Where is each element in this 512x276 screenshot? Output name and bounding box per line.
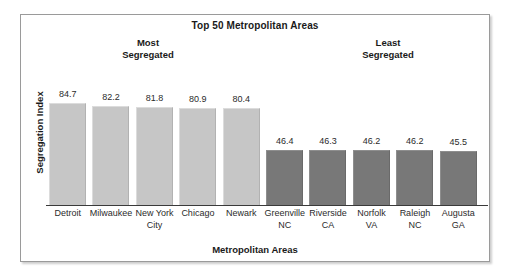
bar <box>49 103 86 206</box>
bar-slot <box>220 61 263 206</box>
bar <box>309 150 346 206</box>
bar-value-label: 46.2 <box>350 136 393 146</box>
bar <box>353 150 390 206</box>
annotation-most-segregated: Most Segregated <box>93 37 203 61</box>
bar-slot <box>393 61 436 206</box>
x-tick-label: AugustaGA <box>433 208 483 231</box>
bar-slot <box>89 61 132 206</box>
bar-value-label: 80.9 <box>176 94 219 104</box>
bar <box>440 151 477 206</box>
bar <box>136 107 173 206</box>
x-axis-title: Metropolitan Areas <box>21 244 489 255</box>
x-axis-baseline <box>46 205 488 206</box>
bar <box>396 150 433 206</box>
bar-value-label: 81.8 <box>133 93 176 103</box>
bar-value-label: 46.2 <box>393 136 436 146</box>
chart-title: Top 50 Metropolitan Areas <box>21 20 489 31</box>
y-axis-title: Segregation Index <box>34 78 45 188</box>
bar-slot <box>350 61 393 206</box>
chart-figure: Top 50 Metropolitan Areas Most Segregate… <box>20 14 490 262</box>
bar-slot <box>263 61 306 206</box>
bar-slot <box>437 61 480 206</box>
bar <box>223 108 260 206</box>
bar-value-label: 46.4 <box>263 136 306 146</box>
bar-slot <box>46 61 89 206</box>
plot-area <box>46 61 480 206</box>
bar-slot <box>306 61 349 206</box>
bar <box>266 150 303 206</box>
bar-slot <box>176 61 219 206</box>
bar-value-label: 80.4 <box>220 94 263 104</box>
bar <box>179 108 216 206</box>
annotation-least-segregated: Least Segregated <box>333 37 443 61</box>
bar <box>92 106 129 206</box>
bar-slot <box>133 61 176 206</box>
bar-value-label: 45.5 <box>437 137 480 147</box>
bar-value-label: 82.2 <box>89 92 132 102</box>
bar-value-label: 84.7 <box>46 89 89 99</box>
bar-value-label: 46.3 <box>306 136 349 146</box>
